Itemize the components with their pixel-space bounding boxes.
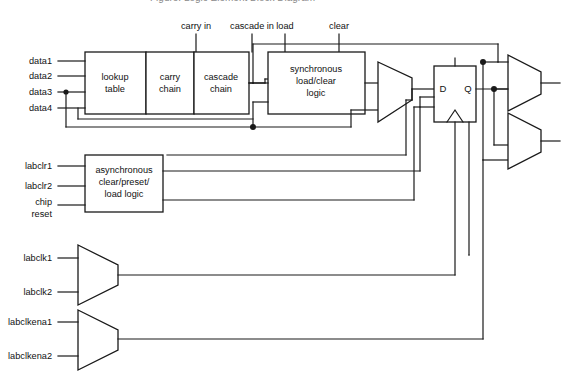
le-function-block	[85, 52, 249, 114]
output-mux-2-shape	[508, 113, 541, 169]
label-chip-reset-l1: chip	[35, 197, 52, 207]
output-distribution-bus	[480, 59, 508, 160]
label-lookup-table-l1: lookup	[101, 72, 128, 82]
logic-element-diagram: Figure: Logic Element Block Diagram	[0, 0, 569, 378]
label-cascade-chain-l1: cascade	[204, 72, 238, 82]
output-mux-2	[508, 113, 560, 169]
label-async-logic-l1: asynchronous	[95, 165, 153, 175]
label-labclk2: labclk2	[23, 287, 52, 297]
output-mux-1-shape	[508, 55, 541, 111]
label-sync-logic-l3: logic	[307, 88, 326, 98]
clock-mux-shape	[78, 245, 118, 305]
clkena-mux-shape	[78, 310, 118, 370]
label-data1: data1	[29, 56, 52, 66]
label-lookup-table-l2: table	[105, 84, 125, 94]
label-labclkena1: labclkena1	[8, 317, 52, 327]
label-labclk1: labclk1	[23, 253, 52, 263]
label-carry-in: carry in	[181, 21, 211, 31]
label-cascade-chain-l2: chain	[210, 84, 232, 94]
label-load: load	[276, 21, 293, 31]
label-clear: clear	[329, 21, 349, 31]
label-carry-chain-l2: chain	[159, 84, 181, 94]
label-carry-chain-l1: carry	[160, 72, 181, 82]
dff-box	[434, 66, 476, 122]
label-sync-logic-l2: load/clear	[296, 76, 336, 86]
label-async-logic-l3: load logic	[105, 189, 144, 199]
label-labclr2: labclr2	[25, 181, 52, 191]
clock-mux	[58, 122, 455, 305]
label-data3: data3	[29, 87, 52, 97]
dff-d-label: D	[440, 83, 447, 94]
lookup-table-box	[85, 52, 146, 114]
label-sync-logic-l1: synchronous	[290, 64, 342, 74]
top-input-stubs	[196, 34, 339, 52]
sync-left-inputs	[249, 83, 268, 127]
output-mux-1	[494, 55, 560, 111]
label-async-logic-l2: clear/preset/	[99, 177, 150, 187]
label-chip-reset-l2: reset	[32, 209, 53, 219]
label-data2: data2	[29, 71, 52, 81]
label-labclr1: labclr1	[25, 161, 52, 171]
data-mux-shape	[378, 62, 412, 122]
label-data4: data4	[29, 103, 52, 113]
cascade-chain-box	[194, 52, 249, 114]
label-cascade-in: cascade in	[230, 21, 274, 31]
dff-q-label: Q	[464, 83, 471, 94]
label-labclkena2: labclkena2	[8, 351, 52, 361]
carry-chain-box	[146, 52, 194, 114]
data3-junction-dot	[63, 89, 68, 94]
diagram-canvas: D Q	[0, 0, 569, 378]
